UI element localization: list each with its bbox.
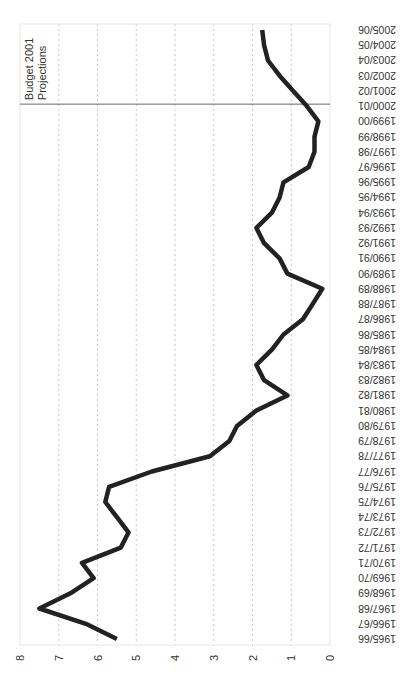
category-label: 1966/67: [358, 618, 396, 630]
category-label: 1985/86: [358, 329, 396, 341]
category-label: 1982/83: [358, 374, 396, 386]
category-axis-labels: 1965/661966/671967/681968/691969/701970/…: [358, 24, 396, 645]
category-label: 1989/90: [358, 268, 396, 280]
category-label: 1994/95: [358, 191, 396, 203]
category-label: 1979/80: [358, 420, 396, 432]
category-label: 1977/78: [358, 450, 396, 462]
category-label: 1991/92: [358, 237, 396, 249]
category-label: 1976/77: [358, 466, 396, 478]
category-label: 1993/94: [358, 207, 396, 219]
value-tick-label: 2: [247, 655, 259, 661]
chart: Budget 2001 Projections 012345678 1965/6…: [0, 0, 400, 675]
category-label: 2004/05: [358, 39, 396, 51]
value-tick-label: 0: [324, 655, 336, 661]
category-label: 1973/74: [358, 511, 396, 523]
annotation-budget-2001: Budget 2001: [23, 38, 35, 100]
value-axis-ticks: 012345678: [14, 655, 336, 661]
series-line-value: [39, 30, 322, 639]
category-label: 1983/84: [358, 359, 396, 371]
category-label: 2002/03: [358, 70, 396, 82]
category-label: 1997/98: [358, 146, 396, 158]
category-label: 1996/97: [358, 161, 396, 173]
annotation-projections: Projections: [36, 45, 48, 100]
value-tick-label: 8: [14, 655, 26, 661]
category-label: 1974/75: [358, 496, 396, 508]
category-label: 1995/96: [358, 176, 396, 188]
gridlines: [59, 24, 292, 645]
category-label: 1990/91: [358, 252, 396, 264]
category-label: 1975/76: [358, 481, 396, 493]
category-label: 1978/79: [358, 435, 396, 447]
category-label: 1972/73: [358, 526, 396, 538]
value-tick-label: 6: [92, 655, 104, 661]
value-tick-label: 1: [285, 655, 297, 661]
series-group: [39, 30, 322, 639]
category-label: 1970/71: [358, 557, 396, 569]
category-label: 1992/93: [358, 222, 396, 234]
category-label: 2001/02: [358, 85, 396, 97]
category-label: 1968/69: [358, 587, 396, 599]
category-label: 1969/70: [358, 572, 396, 584]
category-label: 1984/85: [358, 344, 396, 356]
category-label: 1998/99: [358, 131, 396, 143]
value-tick-label: 7: [53, 655, 65, 661]
value-tick-label: 5: [130, 655, 142, 661]
category-label: 1987/88: [358, 298, 396, 310]
category-label: 2003/04: [358, 54, 396, 66]
category-label: 1999/00: [358, 115, 396, 127]
category-label: 1971/72: [358, 542, 396, 554]
category-label: 1967/68: [358, 603, 396, 615]
category-label: 2000/01: [358, 100, 396, 112]
category-label: 1981/82: [358, 389, 396, 401]
category-label: 1980/81: [358, 405, 396, 417]
value-tick-label: 4: [169, 655, 181, 661]
category-label: 1965/66: [358, 633, 396, 645]
category-label: 1986/87: [358, 313, 396, 325]
value-tick-label: 3: [208, 655, 220, 661]
category-label: 2005/06: [358, 24, 396, 36]
category-label: 1988/89: [358, 283, 396, 295]
